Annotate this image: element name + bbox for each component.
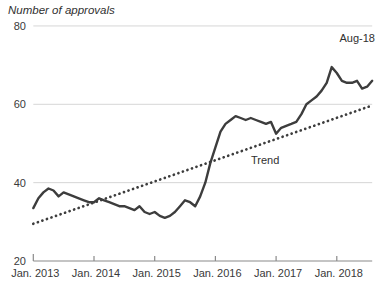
y-tick-label: 80 xyxy=(14,20,26,32)
x-tick-label: Jan. 2018 xyxy=(315,267,363,279)
x-tick-label: Jan. 2016 xyxy=(193,267,241,279)
y-tick-label: 20 xyxy=(14,255,26,267)
trend-label: Trend xyxy=(251,154,279,166)
x-tick-label: Jan. 2017 xyxy=(254,267,302,279)
data-line xyxy=(33,67,372,218)
y-axis-title: Number of approvals xyxy=(8,4,115,16)
approvals-line-chart: 20406080Jan. 2013Jan. 2014Jan. 2015Jan. … xyxy=(0,0,384,294)
y-tick-label: 40 xyxy=(14,177,26,189)
x-tick-label: Jan. 2014 xyxy=(72,267,120,279)
y-tick-label: 60 xyxy=(14,98,26,110)
x-tick-label: Jan. 2013 xyxy=(11,267,59,279)
trend-line xyxy=(33,105,372,223)
x-tick-label: Jan. 2015 xyxy=(133,267,181,279)
plot-area: 20406080Jan. 2013Jan. 2014Jan. 2015Jan. … xyxy=(11,20,372,279)
approvals-chart: 20406080Jan. 2013Jan. 2014Jan. 2015Jan. … xyxy=(0,0,384,294)
end-point-annotation: Aug-18 xyxy=(340,32,375,44)
